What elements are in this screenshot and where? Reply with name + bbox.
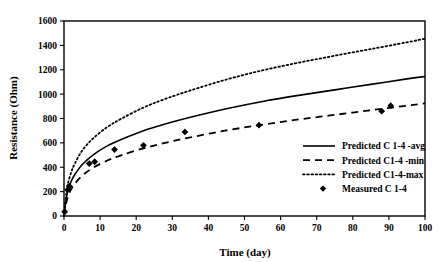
x-tick-label: 10 bbox=[95, 223, 105, 233]
legend-group: Predicted C 1-4 -avgPredicted C1-4 -minP… bbox=[303, 141, 425, 194]
x-tick-label: 0 bbox=[62, 223, 67, 233]
legend-label: Predicted C 1-4 -avg bbox=[342, 141, 425, 151]
x-tick-label: 50 bbox=[240, 223, 250, 233]
data-point-marker bbox=[91, 158, 98, 165]
x-axis-title: Time (day) bbox=[219, 246, 271, 259]
y-axis-title: Resistance (Ohm) bbox=[7, 76, 20, 160]
data-point-marker bbox=[111, 146, 118, 153]
y-tick-label: 200 bbox=[43, 187, 58, 197]
y-tick-label: 0 bbox=[52, 211, 57, 221]
y-tick-label: 1200 bbox=[38, 65, 57, 75]
x-tick-label: 90 bbox=[384, 223, 394, 233]
x-tick-label: 70 bbox=[312, 223, 322, 233]
y-tick-label: 800 bbox=[43, 114, 58, 124]
x-tick-label: 30 bbox=[168, 223, 178, 233]
data-point-marker bbox=[61, 208, 68, 215]
legend-label: Predicted C1-4-max bbox=[342, 170, 424, 180]
x-tick-label: 20 bbox=[131, 223, 141, 233]
data-point-marker bbox=[86, 160, 93, 167]
y-tick-label: 600 bbox=[43, 138, 58, 148]
chart-canvas: 0200400600800100012001400160001020304050… bbox=[0, 0, 446, 262]
legend-swatch-marker bbox=[320, 185, 326, 191]
y-tick-label: 1600 bbox=[38, 16, 57, 26]
x-tick-label: 80 bbox=[348, 223, 358, 233]
x-tick-label: 100 bbox=[418, 223, 433, 233]
legend-label: Predicted C1-4 -min bbox=[342, 156, 425, 166]
data-point-marker bbox=[182, 129, 189, 136]
x-tick-label: 60 bbox=[276, 223, 286, 233]
data-point-marker bbox=[256, 122, 263, 129]
chart-figure: 0200400600800100012001400160001020304050… bbox=[0, 0, 446, 262]
y-tick-label: 1400 bbox=[38, 41, 57, 51]
data-point-marker bbox=[140, 142, 147, 149]
x-tick-label: 40 bbox=[204, 223, 214, 233]
y-tick-label: 1000 bbox=[38, 90, 57, 100]
y-tick-label: 400 bbox=[43, 163, 58, 173]
legend-label: Measured C 1-4 bbox=[342, 184, 407, 194]
